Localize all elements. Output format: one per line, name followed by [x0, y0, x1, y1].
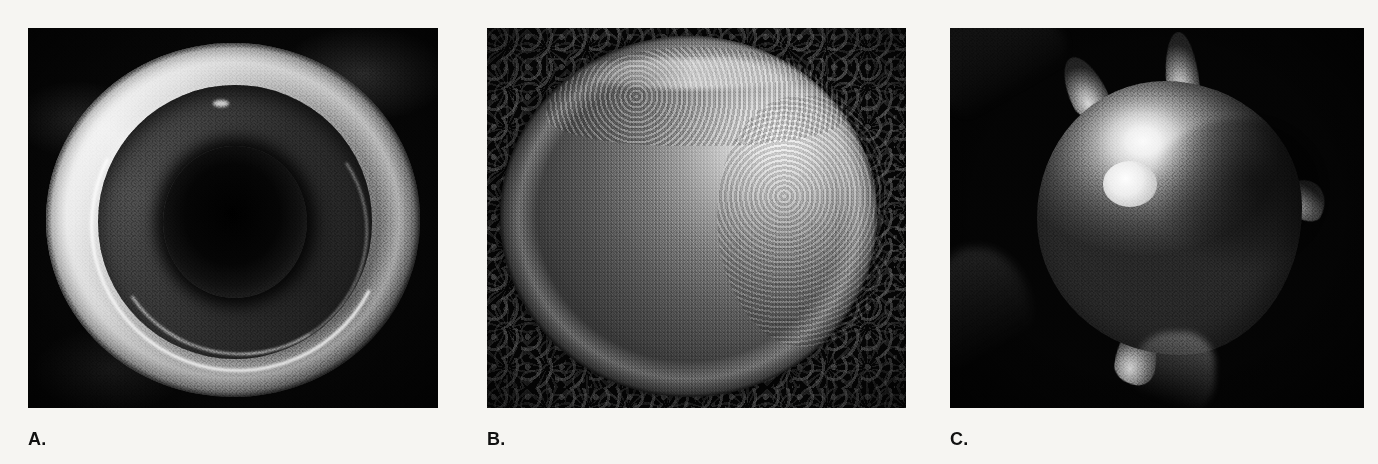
panel-c-image	[950, 28, 1364, 408]
discocyte-central-depression	[163, 146, 307, 298]
panel-b-micrograph	[487, 28, 906, 408]
panel-a-caption: A.	[28, 430, 46, 448]
panel-c-micrograph	[950, 28, 1364, 408]
discocyte-surface-fleck	[213, 100, 229, 107]
panel-b-caption: B.	[487, 430, 505, 448]
micrograph-figure: A. B.	[0, 0, 1378, 464]
panel-a: A.	[28, 0, 438, 464]
panel-b-image	[487, 28, 906, 408]
panel-a-micrograph	[28, 28, 438, 408]
echinocyte-lower-projection	[1132, 332, 1215, 408]
panel-a-image	[28, 28, 438, 408]
panel-c-caption: C.	[950, 430, 968, 448]
panel-c: C.	[950, 0, 1364, 464]
spherocyte-top-ridge	[571, 58, 814, 88]
panel-b: B.	[487, 0, 906, 464]
echinocyte-surface-bleb	[1103, 161, 1157, 207]
